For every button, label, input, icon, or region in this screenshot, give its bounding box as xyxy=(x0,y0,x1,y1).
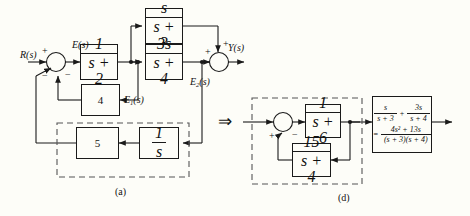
denominator: s + 3 xyxy=(374,114,397,123)
denominator: s xyxy=(152,143,166,161)
sum-d-sign-minus: − xyxy=(292,130,298,140)
label-e2-of-s: E2(s) xyxy=(190,77,210,88)
label-output-y-of-s: Y(s) xyxy=(228,43,244,53)
expression-line-1: s s + 3 + 3s s + 4 xyxy=(374,104,430,123)
numerator: s xyxy=(146,0,182,18)
block-integrator-expression: 1 s xyxy=(152,125,166,161)
denominator: s + 2 xyxy=(81,54,117,89)
numerator: 3s xyxy=(146,36,182,54)
denominator: (s + 3)(s + 4) xyxy=(381,135,431,144)
block-integrator-1-over-s[interactable]: 1 s xyxy=(139,127,179,159)
equals-sign: = xyxy=(373,131,378,139)
combined-expression: s s + 3 + 3s s + 4 = 4s² + 13s (s + 3)(s… xyxy=(373,104,430,145)
numerator: 15 xyxy=(293,134,330,152)
expression-line-2: = 4s² + 13s (s + 3)(s + 4) xyxy=(373,126,430,145)
numerator: 3s xyxy=(407,104,430,113)
sum-d-sign-plus: + xyxy=(269,131,275,141)
numerator: 1 xyxy=(152,125,166,143)
caption-d: (d) xyxy=(338,192,350,203)
block-lower-3s-over-s-plus-4[interactable]: 3s s + 4 xyxy=(145,44,183,80)
label-e1-of-s: E1(s) xyxy=(124,95,144,106)
block-gain-4[interactable]: 4 xyxy=(81,84,120,116)
sum1-sign-plus: + xyxy=(42,46,48,56)
numerator: s xyxy=(374,104,397,113)
figure-canvas: 1 s + 2 s s + 3 3s s + 4 4 5 1 s R(s) E(… xyxy=(0,0,470,216)
label-error-e-of-s: E(s) xyxy=(72,40,89,50)
denominator: s + 4 xyxy=(293,152,330,187)
numerator: 1 xyxy=(306,95,340,113)
operator-plus: + xyxy=(400,110,405,118)
transform-arrow-icon: ⇒ xyxy=(218,111,232,132)
block-d-combined-transfer-function[interactable]: s s + 3 + 3s s + 4 = 4s² + 13s (s + 3)(s… xyxy=(372,96,432,153)
term-2: 3s s + 4 xyxy=(407,104,430,123)
sum1-sign-minus-b: − xyxy=(65,70,71,80)
label-input-r-of-s: R(s) xyxy=(20,50,37,60)
term-1: s s + 3 xyxy=(374,104,397,123)
numerator: 4s² + 13s xyxy=(381,126,431,135)
block-gain-5[interactable]: 5 xyxy=(76,127,119,159)
caption-a: (a) xyxy=(115,186,126,197)
block-lower-expression: 3s s + 4 xyxy=(146,36,182,88)
block-d-feedback-expression: 15 s + 4 xyxy=(293,134,330,186)
gain-value: 4 xyxy=(98,94,104,106)
denominator: s + 4 xyxy=(146,54,182,89)
block-d-feedback-15-over-s-plus-4[interactable]: 15 s + 4 xyxy=(292,143,331,177)
sum1-sign-minus-a: − xyxy=(42,71,48,81)
denominator: s + 4 xyxy=(407,114,430,123)
sum2-sign-plus-left: + xyxy=(205,47,211,57)
gain-value: 5 xyxy=(95,137,101,149)
result-fraction: 4s² + 13s (s + 3)(s + 4) xyxy=(381,126,431,145)
sum2-sign-plus-top: + xyxy=(223,39,229,49)
